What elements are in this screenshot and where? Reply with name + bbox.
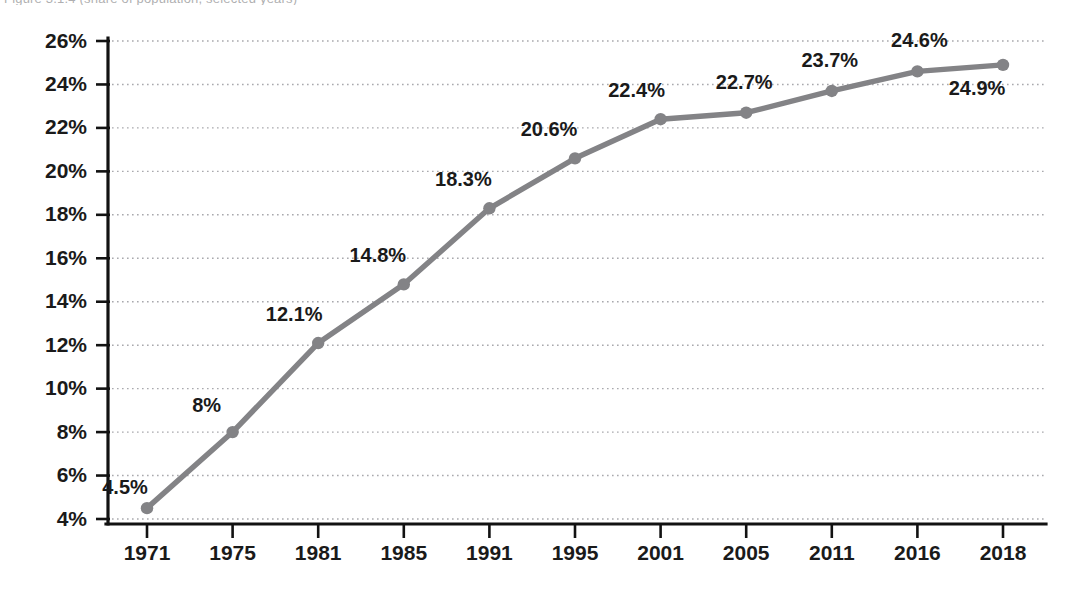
data-point-marker — [911, 65, 923, 77]
data-point-marker — [569, 152, 581, 164]
data-point-marker — [740, 107, 752, 119]
x-tick-label: 1981 — [295, 541, 342, 564]
data-point-label: 18.3% — [435, 168, 492, 190]
x-tick-label: 2016 — [894, 541, 941, 564]
x-tick-label: 2018 — [980, 541, 1027, 564]
data-point-marker — [141, 502, 153, 514]
data-point-label: 14.8% — [349, 244, 406, 266]
y-tick-label: 18% — [45, 202, 87, 225]
x-tick-label: 1971 — [124, 541, 171, 564]
y-tick-label: 6% — [57, 463, 88, 486]
data-point-label: 22.7% — [716, 71, 773, 93]
y-axis-labels: 26%24%22%20%18%16%14%12%10%8%6%4% — [45, 29, 87, 530]
y-tick-label: 24% — [45, 72, 87, 95]
y-tick-label: 10% — [45, 376, 87, 399]
y-tick-label: 4% — [57, 507, 88, 530]
gridlines — [112, 41, 1046, 519]
x-axis-labels: 1971197519811985199119952001200520112016… — [124, 541, 1027, 564]
chart-page: Figure 3.1.4 (share of population, selec… — [0, 0, 1089, 610]
chart-svg: 26%24%22%20%18%16%14%12%10%8%6%4% 197119… — [0, 0, 1089, 610]
data-point-label: 23.7% — [801, 49, 858, 71]
data-point-label: 8% — [192, 394, 221, 416]
data-point-marker — [398, 278, 410, 290]
line-chart: 26%24%22%20%18%16%14%12%10%8%6%4% 197119… — [0, 0, 1089, 610]
data-point-label: 24.6% — [891, 29, 948, 51]
data-point-label: 22.4% — [608, 79, 665, 101]
x-tick-label: 1995 — [552, 541, 599, 564]
y-tick-label: 14% — [45, 289, 87, 312]
data-point-marker — [826, 85, 838, 97]
x-tick-label: 1985 — [380, 541, 427, 564]
data-point-marker — [654, 113, 666, 125]
x-tick-label: 2011 — [809, 541, 855, 564]
data-point-marker — [997, 59, 1009, 71]
x-tick-label: 1975 — [209, 541, 256, 564]
y-tick-label: 20% — [45, 159, 87, 182]
y-tick-label: 12% — [45, 333, 87, 356]
data-point-label: 12.1% — [266, 303, 323, 325]
data-point-label: 20.6% — [521, 118, 578, 140]
x-axis-tick-marks — [147, 524, 1003, 538]
y-tick-label: 26% — [45, 29, 87, 52]
x-tick-label: 1991 — [466, 541, 513, 564]
y-tick-label: 8% — [57, 420, 88, 443]
x-tick-label: 2005 — [723, 541, 770, 564]
x-tick-label: 2001 — [637, 541, 684, 564]
data-point-label: 24.9% — [949, 77, 1006, 99]
y-tick-label: 22% — [45, 115, 87, 138]
data-point-marker — [483, 202, 495, 214]
data-point-marker — [312, 337, 324, 349]
data-point-label: 4.5% — [102, 476, 148, 498]
y-tick-label: 16% — [45, 246, 87, 269]
data-point-marker — [226, 426, 238, 438]
